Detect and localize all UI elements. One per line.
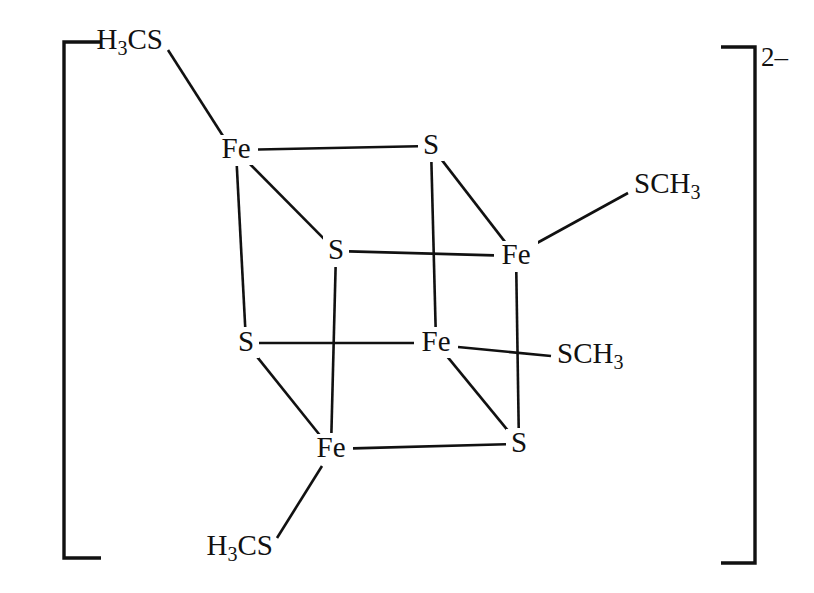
- edge-s-lower-left--fe-bottom-left: [255, 354, 320, 435]
- cubane-structure-drawing: FeSSFeSFeFeS H3CSSCH3SCH3H3CS 2–: [0, 0, 814, 593]
- ligand-labels-group: H3CSSCH3SCH3H3CS: [97, 23, 701, 565]
- thiomethyl-ligand-bottom-left-bond: [277, 466, 322, 538]
- label-background-group: [214, 131, 538, 464]
- edge-s-inner-left--fe-bottom-left: [331, 267, 335, 433]
- thiomethyl-ligand-top-left-label: H3CS: [97, 23, 163, 59]
- edge-fe-top-left--s-top-right: [258, 146, 418, 149]
- right-square-bracket: [721, 47, 755, 563]
- atom-label-s-top-right: S: [423, 128, 439, 160]
- thiomethyl-ligand-top-right-bond: [537, 193, 628, 243]
- cube-bonds-group: [237, 146, 519, 448]
- atom-labels-group: FeSSFeSFeFeS: [222, 128, 531, 463]
- thiomethyl-ligand-top-left-bond: [168, 50, 223, 136]
- thiomethyl-ligand-middle-right-bond: [458, 347, 551, 356]
- atom-label-fe-right: Fe: [502, 238, 531, 270]
- left-square-bracket: [64, 42, 101, 558]
- edge-fe-top-left--s-lower-left: [237, 166, 245, 327]
- edge-s-top-right--fe-center: [431, 162, 435, 327]
- atom-label-s-bottom-right: S: [511, 426, 527, 458]
- edge-fe-right--s-bottom-right: [516, 272, 518, 428]
- overall-charge-label: 2–: [761, 42, 789, 72]
- atom-label-s-inner-left: S: [328, 233, 344, 265]
- atom-label-fe-top-left: Fe: [222, 132, 251, 164]
- ligand-bonds-group: [168, 50, 628, 538]
- molecular-structure-figure: FeSSFeSFeFeS H3CSSCH3SCH3H3CS 2–: [0, 0, 814, 593]
- atom-label-fe-center: Fe: [422, 325, 451, 357]
- edge-fe-bottom-left--s-bottom-right: [353, 444, 506, 448]
- atom-label-fe-bottom-left: Fe: [317, 431, 346, 463]
- edge-fe-center--s-bottom-right: [447, 357, 510, 433]
- edge-s-inner-left--fe-right: [349, 251, 494, 255]
- atom-label-s-lower-left: S: [238, 325, 254, 357]
- edge-s-top-right--fe-right: [440, 158, 505, 243]
- edge-fe-top-left--s-inner-left: [249, 163, 326, 241]
- thiomethyl-ligand-bottom-left-label: H3CS: [207, 529, 273, 565]
